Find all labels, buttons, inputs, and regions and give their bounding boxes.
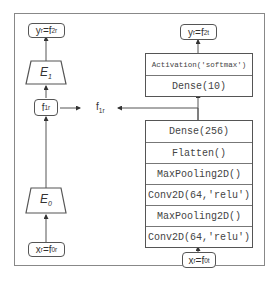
shared-feature-label: f1r — [96, 101, 105, 114]
encoder-symbol: E — [40, 65, 48, 79]
layer-dense-10: Dense(10) — [146, 75, 252, 96]
input-eq-sub: 0t — [204, 257, 209, 264]
input-eq: =f — [196, 255, 205, 266]
left-input-box: xr=f0r — [28, 242, 65, 257]
input-eq: =f — [43, 244, 52, 255]
layer-flatten: Flatten() — [146, 142, 252, 163]
layer-conv2d-1: Conv2D(64,'relu') — [146, 226, 252, 247]
encoder-e0-label: E0 — [40, 192, 52, 207]
feature-var-sub: 1r — [45, 104, 51, 111]
output-eq: =f — [195, 27, 204, 38]
encoder-sub: 0 — [48, 200, 52, 207]
output-eq-sub: 2t — [204, 29, 209, 36]
output-eq-sub: 2r — [52, 27, 58, 34]
right-input-box: xr=f0t — [182, 252, 216, 268]
classifier-head-stack: Activation('softmax') Dense(10) — [145, 53, 253, 97]
right-output-box: yr=f2t — [180, 24, 217, 40]
output-eq: =f — [43, 25, 52, 36]
layer-maxpooling-2: MaxPooling2D() — [146, 163, 252, 184]
encoder-e1-label: E1 — [40, 65, 52, 80]
feature-extractor-stack: Dense(256) Flatten() MaxPooling2D() Conv… — [145, 120, 253, 248]
layer-activation-softmax: Activation('softmax') — [146, 54, 252, 75]
left-output-box: yr=f2r — [28, 23, 65, 38]
encoder-sub: 1 — [48, 73, 52, 80]
input-eq-sub: 0r — [52, 246, 58, 253]
layer-conv2d-2: Conv2D(64,'relu') — [146, 184, 252, 205]
shared-feature-var-sub: 1r — [99, 107, 105, 114]
encoder-symbol: E — [40, 192, 48, 206]
layer-dense-256: Dense(256) — [146, 121, 252, 142]
layer-maxpooling-1: MaxPooling2D() — [146, 205, 252, 226]
feature-box: f1r — [34, 99, 58, 116]
